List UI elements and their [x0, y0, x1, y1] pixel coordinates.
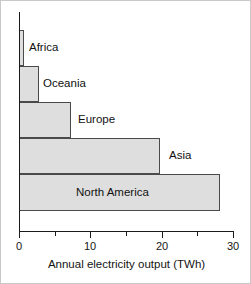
x-tick-15: [126, 232, 127, 236]
x-tick-label-10: 10: [84, 240, 96, 252]
bar-label-oceania: Oceania: [43, 77, 86, 90]
x-tick-30: [233, 232, 234, 238]
bar-europe: [19, 102, 71, 138]
plot-area: Africa Oceania Europe Asia North America…: [1, 1, 251, 284]
chart-figure: Africa Oceania Europe Asia North America…: [0, 0, 251, 284]
bar-oceania: [19, 66, 39, 102]
x-tick-label-20: 20: [156, 240, 168, 252]
x-tick-10: [90, 232, 91, 238]
bar-asia: [19, 138, 160, 174]
x-tick-5: [55, 232, 56, 236]
bar-label-africa: Africa: [29, 41, 58, 54]
x-axis-title: Annual electricity output (TWh): [1, 257, 251, 271]
x-tick-0: [19, 232, 20, 238]
bar-label-europe: Europe: [78, 113, 115, 126]
x-tick-20: [162, 232, 163, 238]
bar-label-north-america: North America: [76, 186, 149, 199]
y-axis-spine: [19, 12, 20, 231]
x-tick-label-30: 30: [227, 240, 239, 252]
x-tick-25: [197, 232, 198, 236]
bar-label-asia: Asia: [169, 149, 191, 162]
x-tick-label-0: 0: [16, 240, 22, 252]
